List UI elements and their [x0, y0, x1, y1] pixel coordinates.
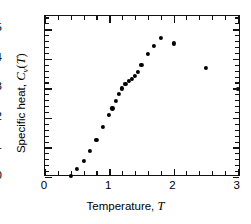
y-axis-major-tick	[45, 88, 52, 89]
x-axis-minor-tick	[161, 171, 162, 175]
y-axis-minor-tick	[45, 41, 49, 42]
y-axis-minor-tick	[45, 124, 49, 125]
data-point	[139, 63, 143, 67]
x-axis-major-tick-top	[109, 16, 110, 23]
y-axis-minor-tick-right	[235, 165, 239, 166]
data-point	[159, 35, 163, 39]
y-axis-major-tick-right	[233, 88, 240, 89]
y-axis-minor-tick-right	[235, 71, 239, 72]
y-axis-minor-tick	[45, 53, 49, 54]
y-axis-major-tick	[45, 59, 52, 60]
y-axis-minor-tick	[45, 47, 49, 48]
y-axis-variable-argument: (T)	[14, 53, 28, 68]
plot-area	[44, 15, 240, 176]
y-axis-minor-tick-right	[235, 130, 239, 131]
data-point	[171, 41, 175, 45]
x-axis-major-tick-top	[238, 16, 239, 23]
y-axis-minor-tick	[45, 159, 49, 160]
data-point	[81, 159, 85, 163]
y-axis-minor-tick	[45, 82, 49, 83]
y-axis-major-tick-right	[233, 29, 240, 30]
x-axis-tick-label: 1	[105, 180, 111, 192]
y-axis-minor-tick-right	[235, 142, 239, 143]
data-point	[101, 125, 105, 129]
y-axis-minor-tick	[45, 77, 49, 78]
y-axis-minor-tick-right	[235, 82, 239, 83]
y-axis-minor-tick-right	[235, 35, 239, 36]
x-axis-major-tick-top	[174, 16, 175, 23]
data-point	[107, 113, 111, 117]
y-axis-minor-tick-right	[235, 159, 239, 160]
data-point	[110, 106, 114, 110]
y-axis-major-tick	[45, 118, 52, 119]
x-axis-title-text: Temperature,	[87, 200, 158, 212]
y-axis-minor-tick-right	[235, 100, 239, 101]
y-axis-minor-tick-right	[235, 77, 239, 78]
x-axis-tick-label: 3	[234, 180, 240, 192]
y-axis-minor-tick-right	[235, 41, 239, 42]
data-point	[88, 149, 92, 153]
y-axis-variable-symbol: C	[14, 73, 28, 81]
y-axis-tick-label: 0	[0, 170, 2, 182]
specific-heat-scatter-figure: 00.10.20.30.40.5 0123 Temperature, T Spe…	[0, 0, 251, 224]
x-axis-major-tick-top	[45, 16, 46, 23]
x-axis-variable-symbol: T	[158, 199, 165, 213]
data-points-layer	[45, 16, 239, 175]
x-axis-minor-tick-top	[148, 16, 149, 20]
data-point	[152, 44, 156, 48]
y-axis-tick-label: 0.2	[0, 111, 2, 123]
x-axis-minor-tick	[225, 171, 226, 175]
y-axis-minor-tick	[45, 130, 49, 131]
x-axis-minor-tick-top	[161, 16, 162, 20]
x-axis-tick-label: 2	[169, 180, 175, 192]
x-axis-major-tick	[109, 169, 110, 176]
y-axis-minor-tick-right	[235, 124, 239, 125]
y-axis-tick-label: 0.1	[0, 141, 2, 153]
y-axis-minor-tick	[45, 94, 49, 95]
y-axis-minor-tick	[45, 100, 49, 101]
x-axis-minor-tick	[212, 171, 213, 175]
y-axis-tick-label: 0.3	[0, 82, 2, 94]
y-axis-major-tick-right	[233, 147, 240, 148]
y-axis-major-tick	[45, 29, 52, 30]
y-axis-minor-tick	[45, 23, 49, 24]
x-axis-minor-tick-top	[84, 16, 85, 20]
x-axis-minor-tick-top	[212, 16, 213, 20]
y-axis-minor-tick-right	[235, 65, 239, 66]
x-axis-minor-tick-top	[186, 16, 187, 20]
data-point	[204, 66, 208, 70]
x-axis-minor-tick	[148, 171, 149, 175]
x-axis-minor-tick	[186, 171, 187, 175]
y-axis-minor-tick-right	[235, 47, 239, 48]
y-axis-minor-tick	[45, 142, 49, 143]
x-axis-minor-tick-top	[225, 16, 226, 20]
x-axis-minor-tick	[96, 171, 97, 175]
y-axis-minor-tick	[45, 165, 49, 166]
data-point	[117, 92, 121, 96]
x-axis-major-tick	[238, 169, 239, 176]
y-axis-tick-label: 0.5	[0, 23, 2, 35]
y-axis-minor-tick-right	[235, 153, 239, 154]
data-point	[114, 99, 118, 103]
x-axis-tick-label: 0	[41, 180, 47, 192]
y-axis-minor-tick	[45, 71, 49, 72]
x-axis-minor-tick	[122, 171, 123, 175]
x-axis-minor-tick-top	[58, 16, 59, 20]
x-axis-minor-tick-top	[71, 16, 72, 20]
x-axis-minor-tick	[135, 171, 136, 175]
data-point	[146, 51, 150, 55]
x-axis-major-tick	[174, 169, 175, 176]
x-axis-minor-tick	[71, 171, 72, 175]
y-axis-tick-label: 0.4	[0, 52, 2, 64]
x-axis-minor-tick-top	[135, 16, 136, 20]
x-axis-minor-tick-top	[122, 16, 123, 20]
y-axis-minor-tick-right	[235, 112, 239, 113]
y-axis-minor-tick-right	[235, 23, 239, 24]
y-axis-title-text: Specific heat,	[15, 81, 27, 153]
y-axis-variable-subscript: v	[20, 69, 30, 73]
data-point	[133, 74, 137, 78]
x-axis-minor-tick-top	[199, 16, 200, 20]
x-axis-title: Temperature, T	[0, 199, 251, 214]
y-axis-title: Specific heat, Cv(T)	[14, 18, 30, 188]
y-axis-minor-tick	[45, 153, 49, 154]
